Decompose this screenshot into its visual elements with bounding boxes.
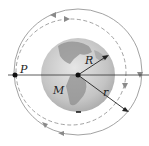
- point-P: [13, 73, 18, 78]
- arrow-icon: [122, 83, 128, 89]
- arrow-icon: [58, 131, 64, 136]
- orbit-diagram: P M R r: [0, 0, 149, 146]
- label-r: r: [103, 86, 109, 99]
- label-M: M: [52, 84, 65, 97]
- label-R: R: [84, 54, 93, 67]
- label-P: P: [19, 63, 28, 76]
- arrow-icon: [64, 16, 70, 22]
- arrow-icon: [50, 12, 56, 18]
- center-dot: [76, 73, 81, 78]
